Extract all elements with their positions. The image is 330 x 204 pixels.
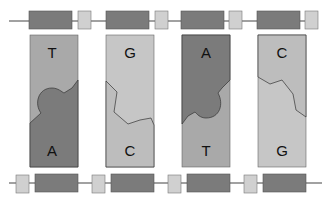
phosphate-block — [92, 175, 105, 193]
phosphate-block — [305, 11, 318, 29]
sugar-block — [111, 174, 154, 192]
phosphate-block — [168, 175, 181, 193]
sugar-block — [106, 11, 149, 29]
phosphate-block — [16, 175, 29, 193]
base-pairing-diagram: T A G C A T C G — [0, 0, 330, 204]
sugar-block — [29, 11, 72, 29]
base-label: T — [47, 44, 56, 61]
base-label: C — [125, 142, 136, 159]
sugar-block — [181, 11, 224, 29]
sugar-block — [263, 174, 306, 192]
base-pair-1: T A — [30, 35, 78, 167]
phosphate-block — [78, 11, 91, 29]
base-label: G — [124, 44, 136, 61]
phosphate-block — [244, 175, 257, 193]
base-label: G — [276, 142, 288, 159]
base-label: T — [201, 142, 210, 159]
bottom-strand — [9, 174, 322, 193]
base-pair-3: A T — [182, 35, 230, 167]
sugar-block — [187, 174, 230, 192]
sugar-block — [257, 11, 300, 29]
base-pair-2: G C — [106, 35, 154, 167]
base-label: C — [277, 44, 288, 61]
base-label: A — [201, 44, 211, 61]
phosphate-block — [155, 11, 168, 29]
top-strand — [9, 11, 318, 29]
phosphate-block — [229, 11, 242, 29]
sugar-block — [35, 174, 78, 192]
base-pair-4: C G — [258, 35, 306, 167]
base-label: A — [47, 142, 57, 159]
